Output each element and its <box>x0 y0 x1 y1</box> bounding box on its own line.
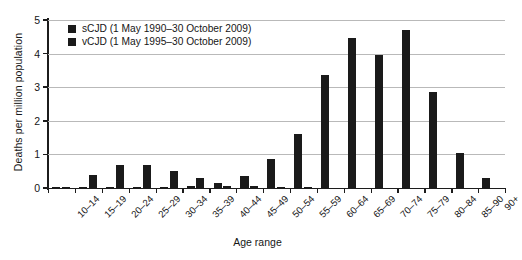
x-tick-mark <box>263 188 264 193</box>
x-tick-label: 65–69 <box>371 193 398 220</box>
bar <box>133 187 141 188</box>
y-tick-label: 5 <box>34 15 40 26</box>
gridline <box>48 87 505 88</box>
bar <box>321 75 329 188</box>
x-tick-mark <box>102 188 103 193</box>
y-tick-label: 3 <box>34 82 40 93</box>
bar <box>223 186 231 188</box>
y-tick-label: 1 <box>34 149 40 160</box>
gridline <box>48 20 505 21</box>
bar <box>106 187 114 188</box>
bar <box>170 171 178 188</box>
bar <box>62 187 70 188</box>
bar <box>240 176 248 188</box>
bar <box>429 92 437 188</box>
bar <box>160 187 168 188</box>
x-tick-mark <box>371 188 372 193</box>
x-tick-mark <box>344 188 345 193</box>
y-tick-label: 4 <box>34 48 40 59</box>
y-tick-mark <box>43 19 48 21</box>
x-tick-mark <box>129 188 130 193</box>
bar <box>116 165 124 188</box>
x-tick-mark <box>75 188 76 193</box>
x-tick-label: 40–44 <box>236 193 263 220</box>
legend-item-vcjd: vCJD (1 May 1995–30 October 2009) <box>68 35 251 48</box>
bar <box>402 30 410 188</box>
bar <box>52 187 60 188</box>
x-tick-label: 55–59 <box>317 193 344 220</box>
x-tick-label: 60–64 <box>344 193 371 220</box>
bar <box>294 134 302 188</box>
x-tick-label: 25–29 <box>156 193 183 220</box>
bar <box>267 159 275 188</box>
bar <box>277 187 285 188</box>
bar <box>304 187 312 188</box>
x-tick-mark <box>478 188 479 193</box>
bar <box>187 186 195 188</box>
x-tick-mark <box>48 188 49 193</box>
x-tick-mark <box>209 188 210 193</box>
x-tick-label: 35–39 <box>210 193 237 220</box>
x-tick-label: 75–79 <box>425 193 452 220</box>
bar <box>456 153 464 188</box>
y-tick-label: 2 <box>34 116 40 127</box>
y-axis-title: Deaths per million population <box>12 12 24 192</box>
x-tick-label: 30–34 <box>183 193 210 220</box>
x-tick-label: 70–74 <box>398 193 425 220</box>
x-tick-label: 20–24 <box>129 193 156 220</box>
legend-label-vcjd: vCJD (1 May 1995–30 October 2009) <box>82 36 251 47</box>
y-tick-mark <box>43 120 48 122</box>
x-tick-label: 80–84 <box>452 193 479 220</box>
bar <box>143 165 151 188</box>
x-tick-mark <box>317 188 318 193</box>
bar <box>196 178 204 188</box>
x-tick-mark <box>290 188 291 193</box>
x-tick-label: 90+ <box>502 193 521 212</box>
x-tick-label: 10–14 <box>75 193 102 220</box>
chart-legend: sCJD (1 May 1990–30 October 2009) vCJD (… <box>68 22 251 48</box>
bar <box>89 175 97 188</box>
x-tick-mark <box>236 188 237 193</box>
gridline <box>48 54 505 55</box>
y-tick-mark <box>43 53 48 55</box>
x-tick-mark <box>397 188 398 193</box>
y-tick-mark <box>43 86 48 88</box>
legend-swatch-icon <box>68 38 76 46</box>
x-tick-label: 50–54 <box>290 193 317 220</box>
legend-item-scjd: sCJD (1 May 1990–30 October 2009) <box>68 22 251 35</box>
bar <box>214 183 222 188</box>
x-tick-mark <box>156 188 157 193</box>
x-tick-mark <box>424 188 425 193</box>
y-tick-label: 0 <box>34 183 40 194</box>
y-tick-mark <box>43 154 48 156</box>
x-tick-label: 15–19 <box>102 193 129 220</box>
x-tick-label: 45–49 <box>263 193 290 220</box>
bar <box>250 186 258 188</box>
x-tick-mark <box>505 188 506 193</box>
bar <box>79 187 87 188</box>
x-axis-title: Age range <box>0 236 515 248</box>
x-tick-mark <box>451 188 452 193</box>
bar <box>348 38 356 188</box>
bar <box>482 178 490 188</box>
legend-swatch-icon <box>68 25 76 33</box>
x-tick-mark <box>182 188 183 193</box>
x-tick-label: 85–90 <box>478 193 505 220</box>
bar <box>375 55 383 188</box>
legend-label-scjd: sCJD (1 May 1990–30 October 2009) <box>82 23 251 34</box>
